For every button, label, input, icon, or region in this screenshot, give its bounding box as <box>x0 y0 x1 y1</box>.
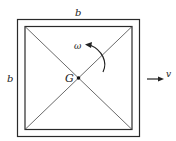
label-G: G <box>65 72 74 85</box>
rotation-arrowhead-icon <box>85 42 92 48</box>
label-omega: ω <box>74 41 82 51</box>
label-left-b: b <box>7 73 13 84</box>
label-v: v <box>166 69 171 79</box>
diagram-canvas: G ω v b b <box>0 0 176 141</box>
label-top-b: b <box>75 7 81 18</box>
velocity-arrowhead-icon <box>158 77 164 82</box>
rotation-arrow-icon <box>90 45 105 72</box>
center-point <box>77 76 81 80</box>
